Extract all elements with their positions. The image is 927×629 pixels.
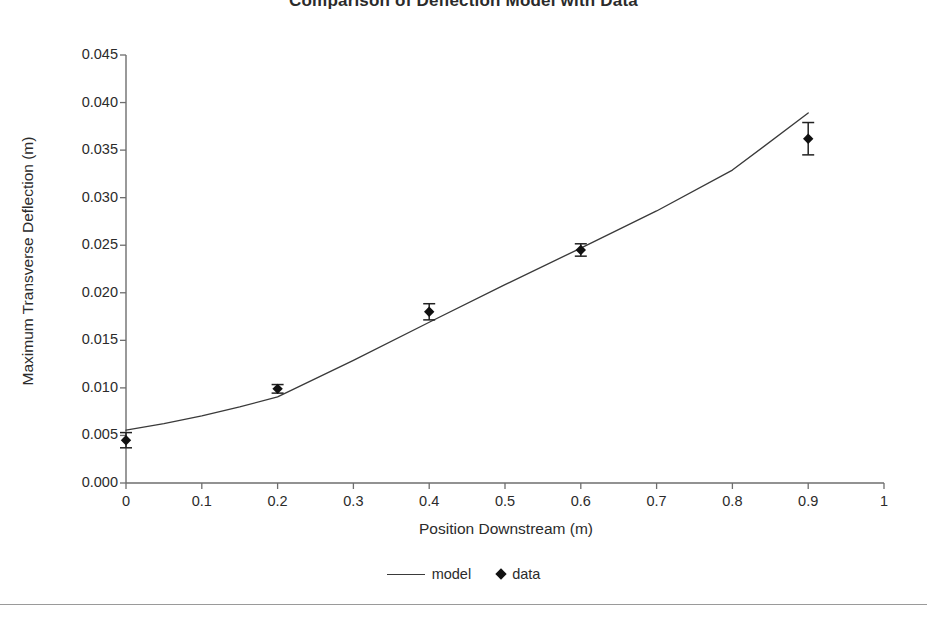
x-axis-tick-label-text: 0.2 (268, 493, 288, 509)
x-axis-tick-label: 0.9 (778, 492, 838, 510)
y-axis-tick-label: 0.025 (48, 236, 118, 254)
y-axis-tick-label: 0.000 (48, 474, 118, 492)
model-line (126, 113, 808, 430)
x-axis-tick-label: 0.4 (399, 492, 459, 510)
data-marker-diamond (424, 307, 434, 317)
y-axis-tick-label: 0.010 (48, 379, 118, 397)
series-layer (120, 113, 814, 448)
diamond-swatch-icon (495, 568, 506, 579)
data-point-group (423, 304, 435, 320)
legend-label-model: model (432, 566, 472, 582)
footer-divider (0, 604, 927, 605)
y-axis-tick-label: 0.035 (48, 141, 118, 159)
y-axis-title: Maximum Transverse Deflection (m) (19, 81, 37, 441)
x-axis-tick-label-text: 0.9 (798, 493, 818, 509)
chart-title: Comparison of Deflection Model with Data (0, 0, 927, 11)
y-axis-tick-label: 0.015 (48, 331, 118, 349)
x-axis-tick-label: 0.5 (475, 492, 535, 510)
x-axis-tick-label-text: 0.3 (343, 493, 363, 509)
y-axis-tick-label-text: 0.045 (48, 46, 118, 62)
chart-legend: model data (0, 566, 927, 582)
x-axis-tick-label-text: 0.8 (722, 493, 742, 509)
y-axis-tick-label-text: 0.020 (48, 284, 118, 300)
legend-entry-data: data (497, 566, 540, 582)
x-axis-tick-label: 0.8 (702, 492, 762, 510)
axes-layer (120, 55, 884, 489)
data-point-group (802, 123, 814, 155)
y-axis-tick-label-text: 0.015 (48, 331, 118, 347)
y-axis-tick-label-text: 0.025 (48, 236, 118, 252)
y-axis-tick-label-text: 0.035 (48, 141, 118, 157)
y-axis-tick-label: 0.030 (48, 189, 118, 207)
y-axis-tick-label-text: 0.030 (48, 189, 118, 205)
x-axis-tick-label: 0.7 (627, 492, 687, 510)
chart-figure: Comparison of Deflection Model with Data… (0, 0, 927, 629)
legend-label-data: data (512, 566, 540, 582)
x-axis-tick-label-text: 0.7 (647, 493, 667, 509)
x-axis-tick-label: 0.1 (172, 492, 232, 510)
x-axis-tick-label-text: 0.5 (495, 493, 515, 509)
x-axis-title: Position Downstream (m) (126, 520, 886, 538)
y-axis-tick-label-text: 0.040 (48, 94, 118, 110)
y-axis-tick-label: 0.040 (48, 94, 118, 112)
x-axis-tick-label-text: 0.4 (419, 493, 439, 509)
y-axis-tick-label: 0.005 (48, 426, 118, 444)
x-axis-tick-label-text: 0.1 (192, 493, 212, 509)
x-axis-tick-label: 1 (854, 492, 914, 510)
x-axis-tick-label: 0 (96, 492, 156, 510)
x-axis-tick-label-text: 0.6 (571, 493, 591, 509)
x-axis-tick-label: 0.3 (323, 492, 383, 510)
data-marker-diamond (121, 435, 131, 445)
legend-entry-model: model (387, 566, 472, 582)
line-swatch-icon (387, 574, 425, 575)
y-axis-tick-label-text: 0.000 (48, 474, 118, 490)
x-axis-tick-label: 0.2 (248, 492, 308, 510)
x-axis-tick-label-text: 0 (122, 493, 130, 509)
data-marker-diamond (803, 133, 813, 143)
x-axis-tick-label: 0.6 (551, 492, 611, 510)
x-axis-tick-label-text: 1 (880, 493, 888, 509)
y-axis-tick-label-text: 0.010 (48, 379, 118, 395)
y-axis-tick-label: 0.045 (48, 46, 118, 64)
data-point-group (272, 384, 284, 394)
y-axis-tick-label: 0.020 (48, 284, 118, 302)
y-axis-tick-label-text: 0.005 (48, 426, 118, 442)
